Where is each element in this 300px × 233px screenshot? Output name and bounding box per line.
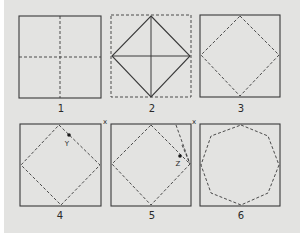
panel-4-label: 4 [57, 210, 63, 221]
panel-1-label: 1 [58, 103, 64, 114]
panel-5-point-z [178, 154, 182, 158]
panel-5-corner-mark: x [192, 118, 196, 126]
panel-5-label: 5 [149, 210, 155, 221]
figure-background [4, 0, 300, 233]
panel-4-point-y [67, 133, 71, 137]
panel-3-label: 3 [238, 103, 244, 114]
panel-6-label: 6 [238, 210, 244, 221]
panel-4-point-label: Y [64, 140, 70, 148]
panel-2-label: 2 [149, 103, 155, 114]
panel-4-corner-mark: x [103, 118, 107, 126]
folding-diagram: 1 2 3 Y x 4 Z [0, 0, 300, 233]
panel-5-point-label: Z [176, 160, 181, 168]
